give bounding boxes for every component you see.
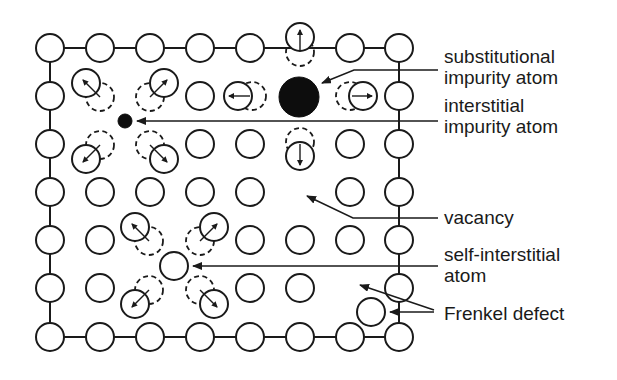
lattice-atom (336, 34, 364, 62)
lattice-atom (36, 226, 64, 254)
lattice-atom (385, 34, 413, 62)
lattice-atom (136, 178, 164, 206)
label-frenkel-defect: Frenkel defect (444, 303, 564, 324)
label-line: vacancy (444, 207, 514, 228)
lattice-atom (186, 130, 214, 158)
lattice-atom (336, 178, 364, 206)
label-line: self-interstitial (444, 244, 560, 265)
lattice-atom (86, 323, 114, 351)
lattice-atom (286, 323, 314, 351)
lattice-atom (236, 226, 264, 254)
lattice-atom (186, 178, 214, 206)
lattice-atom (86, 34, 114, 62)
label-line: substitutional (444, 46, 558, 67)
label-interstitial-impurity-atom: interstitial impurity atom (444, 95, 558, 137)
lattice-atom (36, 82, 64, 110)
lattice-atom (136, 323, 164, 351)
label-substitutional-impurity-atom: substitutional impurity atom (444, 46, 558, 88)
lattice-atom (286, 226, 314, 254)
lattice-atom (385, 130, 413, 158)
lattice-atom (385, 323, 413, 351)
interstitial-impurity-atom (118, 114, 132, 128)
label-self-interstitial-atom: self-interstitial atom (444, 244, 560, 286)
distorted-atoms (72, 23, 377, 318)
lattice-atom (36, 178, 64, 206)
lattice-atom (236, 34, 264, 62)
lattice-atom (36, 274, 64, 302)
label-line: interstitial (444, 95, 558, 116)
lattice-atom (36, 323, 64, 351)
lattice-atom (36, 34, 64, 62)
self-interstitial-atom (160, 252, 188, 280)
lattice-atom (86, 226, 114, 254)
lattice-atom (336, 226, 364, 254)
lattice-atom (186, 34, 214, 62)
lattice-atom (385, 82, 413, 110)
lattice-atom (186, 323, 214, 351)
label-vacancy: vacancy (444, 207, 514, 228)
lattice-atom (86, 178, 114, 206)
lattice-atom (336, 323, 364, 351)
lattice-atom (286, 274, 314, 302)
lattice-atom (186, 82, 214, 110)
label-line: Frenkel defect (444, 303, 564, 324)
label-line: atom (444, 265, 560, 286)
frenkel-interstitial-atom (357, 298, 385, 326)
label-line: impurity atom (444, 67, 558, 88)
lattice-atom (236, 178, 264, 206)
lattice-atom (385, 178, 413, 206)
lattice-atom (36, 130, 64, 158)
lattice-atom (236, 274, 264, 302)
label-line: impurity atom (444, 116, 558, 137)
lattice-atom (236, 130, 264, 158)
lattice-atom (86, 274, 114, 302)
lattice-atom (336, 130, 364, 158)
lattice-atom (236, 323, 264, 351)
lattice-atom (385, 226, 413, 254)
substitutional-impurity-atom (279, 77, 319, 117)
lattice-atom (136, 34, 164, 62)
